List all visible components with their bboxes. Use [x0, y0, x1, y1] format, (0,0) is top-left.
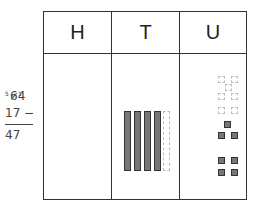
units-header: U: [180, 12, 246, 54]
sum-line: [5, 124, 33, 125]
unit-cube: [218, 132, 225, 139]
hundreds-header: H: [44, 12, 111, 54]
place-value-table: H T U: [43, 11, 247, 200]
hundreds-column: H: [44, 12, 112, 199]
unit-cube-removed: [218, 93, 225, 100]
ten-rod-removed: [163, 111, 170, 171]
unit-cube: [231, 157, 238, 164]
unit-cube-removed: [231, 107, 238, 114]
unit-cube-removed: [231, 76, 238, 83]
unit-cube-removed: [218, 107, 225, 114]
unit-cube: [231, 169, 238, 176]
unit-cube-removed: [218, 76, 225, 83]
difference: 47: [5, 127, 35, 144]
unit-cube: [224, 121, 231, 128]
ten-rod: [144, 111, 151, 171]
ten-rod: [154, 111, 161, 171]
regroup-units-digit: 1: [18, 85, 22, 102]
units-column: U: [180, 12, 246, 199]
unit-cube: [218, 157, 225, 164]
column-subtraction: 5 614 17 − 47: [5, 88, 35, 144]
regroup-tens-digit: 5: [5, 85, 9, 102]
unit-cube: [231, 132, 238, 139]
subtrahend: 17 −: [5, 105, 35, 122]
unit-cube-removed: [225, 84, 232, 91]
ten-rod: [134, 111, 141, 171]
ten-rod: [124, 111, 131, 171]
crossed-tens-digit: 6: [10, 89, 18, 103]
unit-cube-removed: [231, 93, 238, 100]
tens-header: T: [112, 12, 179, 54]
tens-column: T: [112, 12, 180, 199]
minuend: 5 614: [5, 88, 35, 105]
unit-cube: [218, 169, 225, 176]
